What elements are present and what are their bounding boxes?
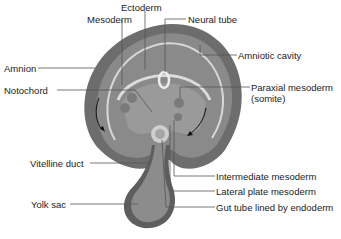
label-intermediate-mesoderm: Intermediate mesoderm [216,171,316,182]
label-somite: (somite) [251,93,285,104]
label-amnion: Amnion [4,63,36,74]
label-vitelline-duct: Vitelline duct [30,158,84,169]
label-mesoderm: Mesoderm [87,14,132,25]
label-ectoderm: Ectoderm [121,2,162,13]
label-amniotic-cavity: Amniotic cavity [238,50,301,61]
label-gut-tube: Gut tube lined by endoderm [216,202,333,213]
label-lateral-plate-mesoderm: Lateral plate mesoderm [216,186,316,197]
label-notochord: Notochord [4,85,48,96]
label-paraxial-mesoderm: Paraxial mesoderm [251,82,333,93]
label-yolk-sac: Yolk sac [31,199,66,210]
label-neural-tube: Neural tube [188,14,237,25]
